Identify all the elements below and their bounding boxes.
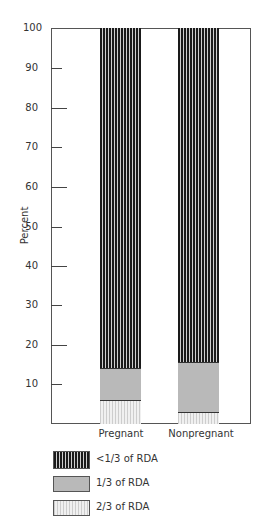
- segment-one-third-rda: [178, 362, 219, 412]
- y-tick-label-70: 70: [2, 141, 38, 153]
- legend-swatch-light-stripes: [53, 500, 90, 516]
- y-tick-30: [51, 305, 62, 306]
- legend-swatch-dark-stripes: [53, 451, 90, 469]
- legend-label: 1/3 of RDA: [96, 477, 149, 488]
- y-tick-40: [51, 266, 67, 267]
- x-label-pregnant: Pregnant: [96, 428, 146, 439]
- y-tick-60: [51, 187, 67, 188]
- y-tick-70: [51, 147, 62, 148]
- y-tick-label-30: 30: [2, 299, 38, 311]
- y-tick-label-50: 50: [2, 221, 38, 233]
- y-tick-label-10: 10: [2, 378, 38, 390]
- segment-lt-one-third-rda: [100, 28, 141, 369]
- segment-two-thirds-rda: [100, 400, 141, 424]
- y-tick-50: [51, 227, 62, 228]
- y-tick-80: [51, 108, 67, 109]
- y-tick-label-20: 20: [2, 339, 38, 351]
- y-tick-20: [51, 345, 67, 346]
- bar-nonpregnant: [178, 28, 219, 424]
- plot-frame: [51, 28, 251, 424]
- segment-two-thirds-rda: [178, 412, 219, 424]
- y-tick-label-60: 60: [2, 181, 38, 193]
- bar-pregnant: [100, 28, 141, 424]
- y-tick-label-80: 80: [2, 102, 38, 114]
- segment-one-third-rda: [100, 368, 141, 400]
- legend-label: <1/3 of RDA: [96, 453, 158, 464]
- segment-lt-one-third-rda: [178, 28, 219, 363]
- x-label-nonpregnant: Nonpregnant: [166, 428, 236, 439]
- legend-swatch-gray: [53, 476, 90, 492]
- y-tick-10: [51, 384, 62, 385]
- y-tick-label-90: 90: [2, 62, 38, 74]
- y-tick-label-100: 100: [6, 22, 42, 34]
- legend-label: 2/3 of RDA: [96, 501, 149, 512]
- y-tick-label-40: 40: [2, 260, 38, 272]
- y-tick-90: [51, 68, 62, 69]
